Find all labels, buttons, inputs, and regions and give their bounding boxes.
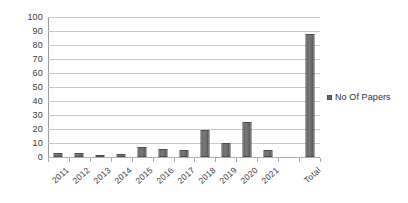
bar-chart: 0102030405060708090100 20112012201320142… (0, 0, 408, 203)
x-axis-tick (215, 158, 216, 162)
bar-slot (174, 17, 195, 157)
x-axis-tick (299, 158, 300, 162)
bar-slot (257, 17, 278, 157)
x-axis-tick (132, 158, 133, 162)
bar-slot (69, 17, 90, 157)
y-axis-label: 0 (38, 152, 43, 162)
x-axis-tick (69, 158, 70, 162)
bar-slot (90, 17, 111, 157)
y-axis-label: 70 (33, 54, 43, 64)
x-axis-tick (90, 158, 91, 162)
bar-slot (215, 17, 236, 157)
x-axis-tick (48, 158, 49, 162)
x-axis-tick (111, 158, 112, 162)
bars (48, 17, 320, 157)
x-axis-label: Total (301, 165, 322, 185)
x-axis-label: 2018 (196, 165, 217, 186)
x-axis-label: 2021 (259, 165, 280, 186)
x-axis-label: 2017 (175, 165, 196, 186)
bar-slot (111, 17, 132, 157)
y-axis-label: 100 (27, 12, 43, 22)
bar (263, 150, 272, 157)
bar-slot (194, 17, 215, 157)
legend: No Of Papers (327, 92, 391, 102)
bar (159, 149, 168, 157)
y-axis-label: 60 (33, 68, 43, 78)
plot-area: 0102030405060708090100 (48, 17, 320, 157)
bar (54, 153, 63, 157)
bar (138, 147, 147, 157)
x-axis-label: 2015 (133, 165, 154, 186)
bar (75, 153, 84, 157)
bar (221, 143, 230, 157)
x-axis-label: 2016 (154, 165, 175, 186)
x-axis-label: 2012 (71, 165, 92, 186)
bar-slot (153, 17, 174, 157)
y-axis-label: 20 (33, 124, 43, 134)
x-axis-label: 2019 (217, 165, 238, 186)
x-axis-label: 2020 (238, 165, 259, 186)
x-axis-tick (320, 158, 321, 162)
bar (117, 154, 126, 157)
bar-slot (132, 17, 153, 157)
x-axis-label: 2014 (113, 165, 134, 186)
x-axis-tick (236, 158, 237, 162)
y-axis-label: 50 (33, 82, 43, 92)
x-axis-tick (257, 158, 258, 162)
x-axis-tick (153, 158, 154, 162)
bar (305, 34, 314, 157)
x-axis-tick (194, 158, 195, 162)
bar (96, 155, 105, 157)
y-axis-label: 40 (33, 96, 43, 106)
y-axis-label: 30 (33, 110, 43, 120)
bar (242, 122, 251, 157)
x-axis-label: 2011 (50, 165, 71, 185)
bar (179, 150, 188, 157)
bar-slot (299, 17, 320, 157)
legend-label: No Of Papers (335, 92, 391, 102)
x-axis-tick (278, 158, 279, 162)
legend-swatch-icon (327, 95, 332, 100)
y-axis-label: 90 (33, 26, 43, 36)
bar (200, 130, 209, 157)
bar-slot (48, 17, 69, 157)
y-axis-label: 10 (33, 138, 43, 148)
x-axis-tick (174, 158, 175, 162)
bar-slot (236, 17, 257, 157)
x-axis-label: 2013 (92, 165, 113, 186)
gridline (48, 157, 320, 158)
y-axis-label: 80 (33, 40, 43, 50)
